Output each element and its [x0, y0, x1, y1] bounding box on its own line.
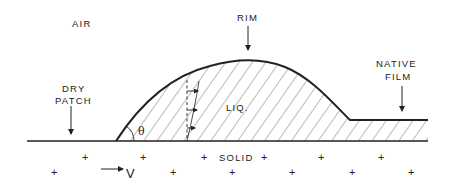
- solid-marker: +: [229, 166, 235, 178]
- solid-marker: +: [140, 151, 146, 163]
- solid-label: SOLID: [219, 152, 254, 163]
- solid-marker: +: [349, 166, 355, 178]
- solid-marker: +: [408, 166, 414, 178]
- liquid-label: LIQ.: [226, 102, 249, 113]
- liquid-region: [116, 61, 428, 142]
- native-film-label-line2: FILM: [385, 71, 411, 82]
- native-film-label-line1: NATIVE: [376, 58, 417, 69]
- solid-marker: +: [289, 166, 295, 178]
- contact-angle-label: θ: [138, 125, 145, 138]
- rim-label: RIM: [237, 12, 258, 23]
- solid-marker: +: [201, 151, 207, 163]
- dry-patch-label-line1: DRY: [62, 83, 86, 94]
- solid-marker: +: [82, 151, 88, 163]
- diagram-canvas: AIR RIM DRY PATCH NATIVE FILM LIQ. SOLID…: [0, 0, 449, 192]
- velocity-label: V: [126, 166, 135, 181]
- solid-marker: +: [170, 166, 176, 178]
- solid-marker: +: [318, 151, 324, 163]
- solid-markers-row-2: + + + + + +: [51, 166, 414, 178]
- solid-marker: +: [378, 151, 384, 163]
- solid-marker: +: [51, 166, 57, 178]
- dewetting-rim-diagram: AIR RIM DRY PATCH NATIVE FILM LIQ. SOLID…: [0, 0, 449, 192]
- dry-patch-label-line2: PATCH: [55, 95, 92, 106]
- solid-marker: +: [261, 151, 267, 163]
- air-label: AIR: [72, 18, 91, 29]
